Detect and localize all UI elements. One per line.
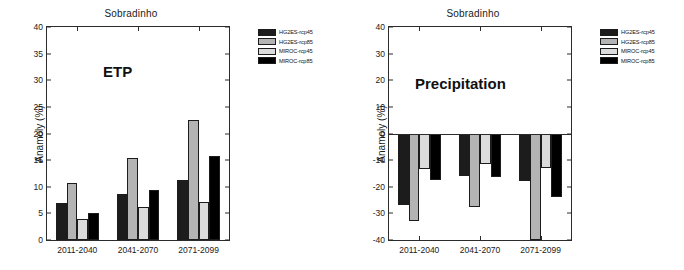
y-tick-mark	[389, 53, 393, 54]
y-tick-mark	[225, 240, 229, 241]
bar	[209, 156, 220, 240]
x-tick-mark	[419, 27, 420, 31]
y-tick-mark	[389, 213, 393, 214]
y-tick-label: -30	[373, 208, 385, 218]
legend-swatch-miroc-rcp85	[258, 57, 276, 64]
y-tick-mark	[567, 240, 571, 241]
y-tick-label: 5	[38, 208, 43, 218]
bar	[199, 202, 210, 240]
plot-area-etp: Anamoly (%) 05101520253035402011-2040204…	[46, 26, 230, 241]
bar	[88, 213, 99, 240]
bar	[177, 180, 188, 240]
y-tick-mark	[225, 106, 229, 107]
bar	[77, 219, 88, 240]
plot-annotation: ETP	[103, 63, 132, 80]
bar	[541, 134, 552, 169]
bar	[469, 134, 480, 207]
y-tick-mark	[47, 106, 51, 107]
legend-item[interactable]: MIROC-rcp85	[258, 57, 336, 65]
y-tick-mark	[225, 186, 229, 187]
y-tick-mark	[47, 133, 51, 134]
x-tick-label: 2041-2070	[118, 245, 159, 255]
y-tick-mark	[389, 240, 393, 241]
y-tick-mark	[389, 106, 393, 107]
legend-label: HG2ES-rcp45	[621, 29, 655, 35]
legend-item[interactable]: HG2ES-rcp45	[600, 28, 678, 36]
y-tick-label: 40	[376, 22, 385, 32]
y-tick-label: 30	[376, 49, 385, 59]
y-tick-mark	[567, 133, 571, 134]
zero-baseline	[389, 134, 571, 135]
x-tick-label: 2011-2040	[57, 245, 97, 255]
y-tick-mark	[225, 160, 229, 161]
legend-item[interactable]: HG2ES-rcp85	[600, 38, 678, 46]
x-tick-mark	[138, 27, 139, 31]
y-tick-label: 0	[38, 235, 43, 245]
x-tick-label: 2071-2099	[520, 245, 561, 255]
legend-label: HG2ES-rcp85	[279, 39, 313, 45]
bar	[149, 190, 160, 240]
y-tick-mark	[225, 133, 229, 134]
x-tick-mark	[138, 236, 139, 240]
y-tick-mark	[389, 27, 393, 28]
bar	[117, 194, 128, 240]
y-tick-mark	[567, 160, 571, 161]
y-tick-mark	[47, 27, 51, 28]
plot-annotation: Precipitation	[415, 75, 506, 92]
y-tick-mark	[567, 80, 571, 81]
y-tick-label: 35	[34, 49, 43, 59]
y-tick-mark	[389, 133, 393, 134]
y-tick-label: 25	[34, 102, 43, 112]
y-tick-mark	[389, 160, 393, 161]
bar	[67, 183, 78, 240]
legend-item[interactable]: HG2ES-rcp45	[258, 28, 336, 36]
y-tick-mark	[47, 240, 51, 241]
bar	[491, 134, 502, 178]
legend-item[interactable]: MIROC-rcp45	[600, 47, 678, 55]
y-tick-mark	[225, 213, 229, 214]
bar	[430, 134, 441, 181]
x-tick-mark	[77, 27, 78, 31]
legend-item[interactable]: HG2ES-rcp85	[258, 38, 336, 46]
y-tick-label: 20	[376, 75, 385, 85]
legend-swatch-hg2es-rcp45	[600, 29, 618, 36]
bar	[409, 134, 420, 222]
x-tick-mark	[541, 236, 542, 240]
y-tick-mark	[47, 213, 51, 214]
legend-item[interactable]: MIROC-rcp85	[600, 57, 678, 65]
panel-etp: Sobradinho Anamoly (%) 05101520253035402…	[0, 0, 342, 270]
panel-precipitation: Sobradinho Anamoly (%) -40-30-20-1001020…	[342, 0, 684, 270]
legend-swatch-miroc-rcp45	[258, 48, 276, 55]
y-tick-label: -40	[373, 235, 385, 245]
y-tick-label: 40	[34, 22, 43, 32]
legend-precipitation: HG2ES-rcp45 HG2ES-rcp85 MIROC-rcp45 MIRO…	[600, 28, 678, 66]
panel-title-precipitation: Sobradinho	[342, 8, 684, 19]
bar	[480, 134, 491, 164]
legend-label: MIROC-rcp85	[279, 58, 312, 64]
y-tick-mark	[389, 80, 393, 81]
y-tick-mark	[567, 106, 571, 107]
plot-area-precipitation: Anamoly (%) -40-30-20-100102030402011-20…	[388, 26, 572, 241]
legend-label: HG2ES-rcp45	[279, 29, 313, 35]
y-tick-mark	[567, 53, 571, 54]
bar	[519, 134, 530, 182]
figure-container: Sobradinho Anamoly (%) 05101520253035402…	[0, 0, 684, 270]
legend-etp: HG2ES-rcp45 HG2ES-rcp85 MIROC-rcp45 MIRO…	[258, 28, 336, 66]
y-tick-label: 15	[34, 155, 43, 165]
x-tick-mark	[480, 236, 481, 240]
bar-series-group-etp	[47, 27, 229, 240]
x-tick-mark	[199, 236, 200, 240]
legend-swatch-hg2es-rcp85	[258, 38, 276, 45]
y-tick-mark	[567, 186, 571, 187]
legend-item[interactable]: MIROC-rcp45	[258, 47, 336, 55]
y-tick-mark	[225, 27, 229, 28]
bar	[530, 134, 541, 241]
legend-swatch-hg2es-rcp85	[600, 38, 618, 45]
bar	[398, 134, 409, 206]
bar	[551, 134, 562, 198]
x-tick-label: 2071-2099	[178, 245, 219, 255]
y-tick-mark	[225, 53, 229, 54]
x-tick-mark	[77, 236, 78, 240]
bar	[138, 207, 149, 240]
bar	[419, 134, 430, 170]
